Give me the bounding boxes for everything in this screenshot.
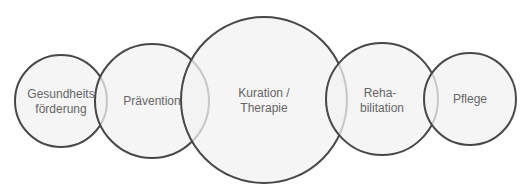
circle-kuration-therapie — [181, 17, 347, 183]
label-pflege: Pflege — [453, 92, 487, 106]
label-kuration-line1: Kuration / — [238, 86, 290, 100]
circle-gesundheitsfoerderung — [15, 55, 107, 147]
label-gesundheitsfoerderung-line2: förderung — [35, 102, 86, 116]
label-praevention: Prävention — [123, 94, 180, 108]
label-rehabilitation-line2: bilitation — [360, 101, 404, 115]
care-continuum-diagram: Gesundheits förderung Prävention Kuratio… — [0, 0, 529, 192]
label-kuration-line2: Therapie — [240, 101, 288, 115]
label-rehabilitation-line1: Reha- — [364, 86, 397, 100]
label-gesundheitsfoerderung-line1: Gesundheits — [27, 87, 94, 101]
